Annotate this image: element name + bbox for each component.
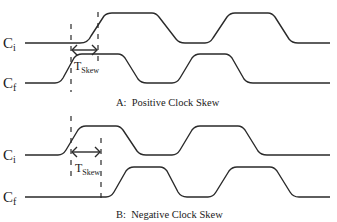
signal-label-cf-b: Cf [3,189,17,207]
tskew-label-b: TSkew [75,161,100,177]
caption-a: A: Positive Clock Skew [116,97,220,108]
panel-positive-skew: Ci Cf TSkew A: Positive Clock Skew [3,12,330,108]
panel-negative-skew: Ci Cf TSkew B: Negative Clock Skew [3,116,330,220]
signal-label-ci-a: Ci [3,35,16,53]
clock-skew-diagram: Ci Cf TSkew A: Positive Clock Skew Ci Cf… [0,0,337,222]
tskew-label-a: TSkew [74,59,99,75]
skew-arrow-b [72,147,100,157]
caption-b: B: Negative Clock Skew [116,209,223,220]
signal-label-cf-a: Cf [3,75,17,93]
signal-label-ci-b: Ci [3,147,16,165]
